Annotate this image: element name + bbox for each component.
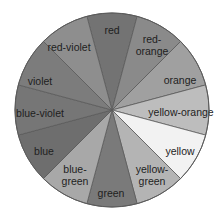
label-red-violet: red-violet — [47, 41, 90, 53]
label-yellow-orange: yellow-orange — [148, 106, 214, 118]
label-violet: violet — [28, 75, 53, 87]
label-yellow: yellow — [165, 145, 195, 157]
label-blue-green: blue-green — [62, 163, 89, 187]
color-wheel-diagram: redred-orangeorangeyellow-orangeyellowye… — [0, 0, 223, 218]
label-orange: orange — [164, 74, 197, 86]
label-red: red — [104, 24, 119, 36]
label-green: green — [98, 187, 125, 199]
label-blue: blue — [34, 145, 54, 157]
label-yellow-green: yellow-green — [136, 163, 169, 187]
label-blue-violet: blue-violet — [16, 107, 64, 119]
